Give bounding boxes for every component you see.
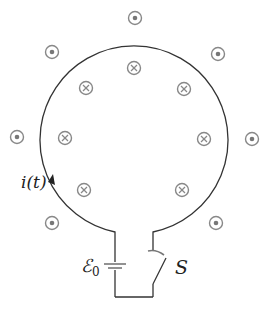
field-dot-icon xyxy=(216,52,221,57)
emf-symbol: ℰ xyxy=(81,255,92,276)
field-dot-icon xyxy=(250,137,255,142)
emf-subscript: 0 xyxy=(92,265,100,279)
current-label: i(t) xyxy=(21,172,47,192)
switch-label: S xyxy=(175,256,188,278)
switch-contact-icon xyxy=(148,251,164,256)
switch-lever-icon xyxy=(153,258,166,284)
field-dot-icon xyxy=(50,50,55,55)
field-dot-icon xyxy=(15,135,20,140)
circuit-diagram xyxy=(0,0,276,313)
emf-label: ℰ0 xyxy=(81,255,100,279)
field-dot-icon xyxy=(50,221,55,226)
field-dot-icon xyxy=(214,221,219,226)
field-dot-icon xyxy=(133,16,138,21)
current-loop-wire xyxy=(40,46,228,247)
